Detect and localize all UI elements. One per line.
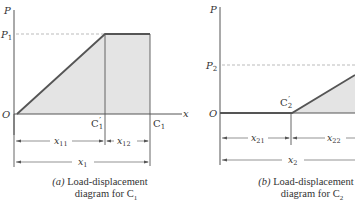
p2-label: P2 <box>205 60 217 73</box>
arrow-icon <box>16 161 21 164</box>
axis-label-p-a: P <box>3 5 11 16</box>
diagram-a: P P1 O x C1′ C1 x11 x12 x1 <box>0 5 189 169</box>
arrow-icon <box>99 140 104 143</box>
arrow-icon <box>222 159 227 162</box>
caption-b-sub: 2 <box>340 194 344 202</box>
diagram-b: P P2 O C2′ x21 x22 x2 <box>205 4 355 167</box>
dim-label-x1: x1 <box>78 156 88 169</box>
caption-b: (b) Load-displacement diagram for C2 <box>236 176 355 204</box>
arrow-icon <box>222 137 227 140</box>
caption-a-line2: diagram for C <box>75 188 134 199</box>
c2-prime-label: C2′ <box>280 94 292 110</box>
origin-label-b: O <box>209 108 217 119</box>
p1-label: P1 <box>0 29 12 42</box>
c1-label: C1 <box>153 118 165 131</box>
c1-prime-label: C1′ <box>91 115 103 131</box>
dim-label-x2: x2 <box>288 154 298 167</box>
arrow-icon <box>106 140 111 143</box>
caption-b-line1: Load-displacement <box>273 176 353 187</box>
caption-a: (a) Load-displacement diagram for C1 <box>30 176 170 204</box>
arrow-icon <box>144 140 149 143</box>
caption-b-line2: diagram for C <box>281 188 340 199</box>
caption-b-tag: (b) <box>258 176 270 187</box>
dim-label-x22: x22 <box>327 132 341 145</box>
dim-label-x12: x12 <box>117 135 131 148</box>
dim-label-x11: x11 <box>54 135 68 148</box>
caption-a-tag: (a) <box>52 176 64 187</box>
axis-label-p-b: P <box>209 4 217 15</box>
dim-label-x21: x21 <box>251 132 265 145</box>
caption-a-line1: Load-displacement <box>67 176 147 187</box>
diagram-canvas: P P1 O x C1′ C1 x11 x12 x1 P P2 O C <box>0 0 355 205</box>
caption-a-sub: 1 <box>134 194 138 202</box>
origin-label-a: O <box>2 109 10 120</box>
arrow-icon <box>292 137 297 140</box>
arrow-icon <box>144 161 149 164</box>
arrow-icon <box>285 137 290 140</box>
work-area-a <box>17 34 150 114</box>
axis-label-x: x <box>183 108 189 119</box>
arrow-icon <box>16 140 21 143</box>
